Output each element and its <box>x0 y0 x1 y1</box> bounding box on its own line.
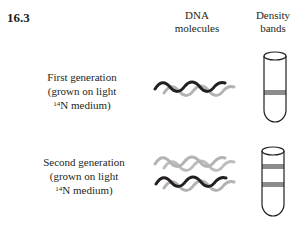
dna-molecule-hybrid-icon <box>156 177 234 190</box>
diagram-graphics <box>0 0 302 228</box>
test-tube-icon <box>264 52 286 122</box>
density-band <box>262 164 284 169</box>
density-band <box>264 90 286 95</box>
density-band <box>262 182 284 187</box>
dna-molecule-hybrid-icon <box>155 82 234 95</box>
dna-molecule-light-icon <box>155 157 234 170</box>
test-tube-icon <box>262 147 284 216</box>
